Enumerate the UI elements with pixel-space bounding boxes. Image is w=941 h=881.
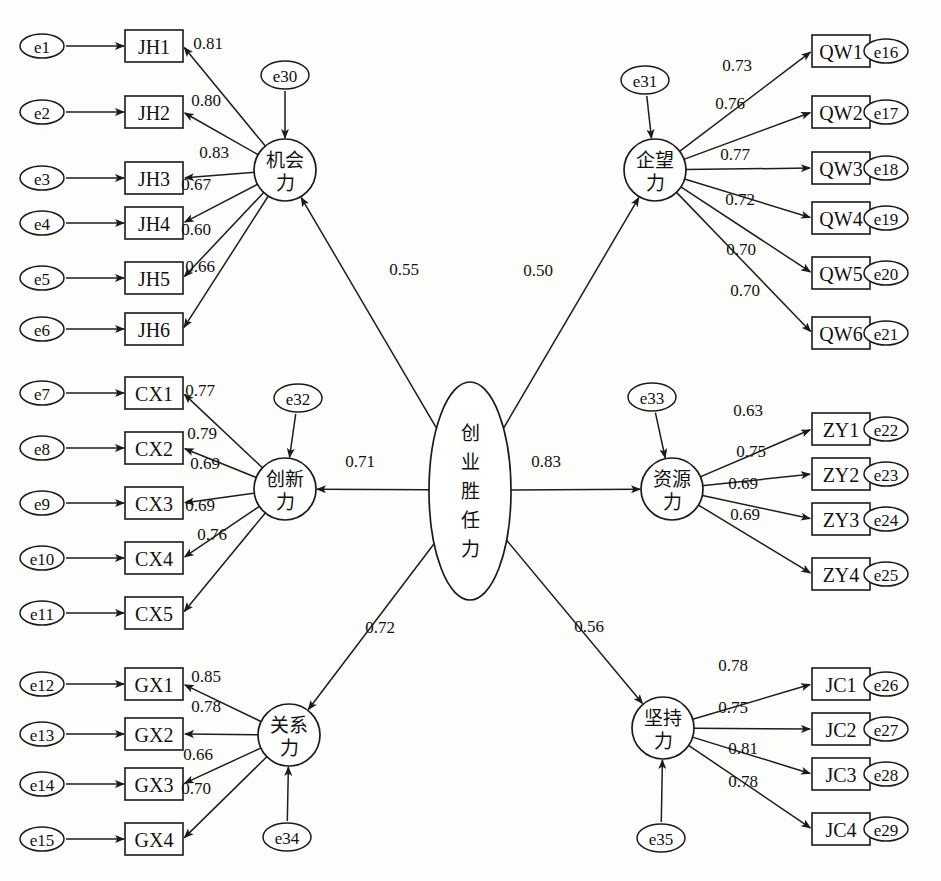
- indicator-label-jh1: JH1: [138, 36, 170, 58]
- indicator-label-zy3: ZY3: [823, 509, 860, 531]
- loading-label-cx5: 0.76: [197, 525, 227, 544]
- sem-path-diagram: JH1e10.81JH2e20.80JH3e30.83JH4e40.67JH5e…: [0, 0, 941, 881]
- error-label-e8: e8: [34, 440, 50, 459]
- indicator-label-gx3: GX3: [135, 774, 174, 796]
- loading-label-zy1: 0.63: [733, 401, 763, 420]
- error-label-e17: e17: [874, 104, 899, 123]
- loading-label-jh2: 0.80: [191, 91, 221, 110]
- structural-path-label-zy: 0.83: [531, 452, 561, 471]
- error-label-e20: e20: [874, 265, 899, 284]
- structural-path-label-cx: 0.71: [345, 452, 375, 471]
- indicator-label-jh6: JH6: [138, 319, 170, 341]
- indicator-label-cx1: CX1: [135, 383, 173, 405]
- indicator-label-qw1: QW1: [819, 41, 862, 63]
- disturbance-label-e32: e32: [286, 390, 311, 409]
- error-label-e4: e4: [34, 215, 51, 234]
- loading-label-gx3: 0.66: [183, 745, 213, 764]
- disturbance-label-e34: e34: [275, 829, 300, 848]
- construct-label-jc-line1: 坚持: [644, 708, 682, 729]
- indicator-label-zy1: ZY1: [823, 419, 860, 441]
- loading-label-jh5: 0.60: [181, 220, 211, 239]
- construct-label-cx-line2: 力: [276, 492, 295, 513]
- indicator-label-zy4: ZY4: [823, 564, 860, 586]
- loading-label-jh3: 0.83: [199, 143, 229, 162]
- construct-label-zy-line2: 力: [663, 492, 682, 513]
- construct-label-jh-line2: 力: [276, 173, 295, 194]
- structural-path-label-gx: 0.72: [365, 618, 395, 637]
- error-label-e9: e9: [34, 495, 50, 514]
- indicator-label-cx5: CX5: [135, 603, 173, 625]
- loading-label-jc4: 0.78: [728, 772, 758, 791]
- error-label-e2: e2: [34, 104, 50, 123]
- disturbance-arrow-e32: [290, 414, 296, 457]
- error-label-e16: e16: [874, 43, 899, 62]
- diagram-canvas: JH1e10.81JH2e20.80JH3e30.83JH4e40.67JH5e…: [0, 0, 941, 881]
- indicator-label-qw6: QW6: [819, 323, 862, 345]
- error-label-e15: e15: [30, 831, 55, 850]
- construct-label-qw-line2: 力: [646, 173, 665, 194]
- loading-label-gx4: 0.70: [181, 779, 211, 798]
- loading-label-cx3: 0.69: [190, 454, 220, 473]
- disturbance-arrow-e35: [661, 760, 662, 822]
- error-label-e6: e6: [34, 321, 50, 340]
- error-label-e13: e13: [30, 726, 55, 745]
- structural-path-center-to-jc: [494, 525, 643, 704]
- loading-arrow-jc1: [692, 685, 810, 720]
- construct-label-jc-line2: 力: [654, 731, 673, 752]
- loading-arrow-jc2: [693, 728, 810, 729]
- indicator-label-jh3: JH3: [138, 168, 170, 190]
- construct-label-cx-line1: 创新: [266, 469, 304, 490]
- loading-label-qw5: 0.70: [726, 240, 756, 259]
- structural-path-label-jh: 0.55: [389, 260, 419, 279]
- construct-label-qw-line1: 企望: [636, 150, 674, 171]
- indicator-label-gx2: GX2: [135, 724, 174, 746]
- structural-path-label-jc: 0.56: [574, 617, 604, 636]
- loading-label-qw3: 0.77: [720, 145, 750, 164]
- error-label-e1: e1: [34, 38, 50, 57]
- loading-arrow-qw3: [685, 168, 810, 170]
- indicator-label-jc1: JC1: [825, 674, 856, 696]
- loading-label-jh6: 0.66: [185, 257, 215, 276]
- error-label-e5: e5: [34, 270, 50, 289]
- indicator-label-jc4: JC4: [825, 819, 856, 841]
- error-label-e24: e24: [874, 511, 899, 530]
- disturbance-arrow-e33: [655, 413, 665, 458]
- center-construct-char-5: 力: [461, 539, 480, 560]
- error-label-e11: e11: [30, 605, 54, 624]
- loading-label-zy4: 0.69: [730, 505, 760, 524]
- indicator-label-cx2: CX2: [135, 438, 173, 460]
- error-label-e28: e28: [874, 766, 899, 785]
- structural-path-center-to-cx: [317, 489, 429, 490]
- indicator-label-qw2: QW2: [819, 102, 862, 124]
- disturbance-label-e31: e31: [633, 72, 658, 91]
- center-construct-char-4: 任: [461, 510, 480, 531]
- error-label-e27: e27: [874, 721, 899, 740]
- center-construct-char-3: 胜: [461, 481, 480, 502]
- structural-path-label-qw: 0.50: [523, 261, 553, 280]
- error-label-e21: e21: [874, 325, 899, 344]
- loading-label-zy3: 0.69: [728, 474, 758, 493]
- loading-label-cx1: 0.77: [185, 381, 215, 400]
- indicator-label-jh2: JH2: [138, 102, 170, 124]
- loading-label-jc1: 0.78: [718, 656, 748, 675]
- construct-label-gx-line2: 力: [280, 738, 299, 759]
- error-label-e7: e7: [34, 385, 51, 404]
- error-label-e23: e23: [874, 466, 899, 485]
- loading-label-qw2: 0.76: [715, 94, 745, 113]
- indicator-label-qw3: QW3: [819, 158, 862, 180]
- error-label-e3: e3: [34, 170, 50, 189]
- disturbance-arrow-e31: [647, 96, 652, 138]
- loading-arrow-gx2: [185, 734, 259, 735]
- error-label-e12: e12: [30, 676, 55, 695]
- indicator-label-qw5: QW5: [819, 263, 862, 285]
- indicator-label-zy2: ZY2: [823, 464, 860, 486]
- center-construct-char-2: 业: [461, 452, 480, 473]
- error-label-e29: e29: [874, 821, 899, 840]
- construct-label-jh-line1: 机会: [266, 150, 304, 171]
- construct-label-zy-line1: 资源: [653, 469, 691, 490]
- construct-label-gx-line1: 关系: [270, 715, 308, 736]
- disturbance-arrow-e34: [287, 767, 288, 821]
- disturbance-label-e35: e35: [649, 830, 674, 849]
- indicator-label-gx4: GX4: [135, 829, 174, 851]
- loading-arrow-qw6: [676, 192, 811, 332]
